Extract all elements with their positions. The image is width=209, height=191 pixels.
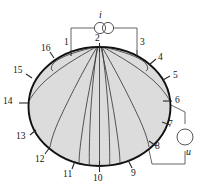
electrode-label-4: 4	[158, 53, 163, 63]
figure-root: i u 1 2 3 4 5 6 7 8 9 10 11 12 13 14 15 …	[0, 0, 209, 191]
electrode-label-11: 11	[63, 170, 72, 180]
current-source-label: i	[99, 10, 102, 20]
voltage-label: u	[186, 147, 191, 157]
electrode-label-12: 12	[35, 155, 45, 165]
electrode-label-2: 2	[95, 34, 100, 44]
electrode-tick-4[interactable]	[149, 59, 156, 65]
electrode-label-5: 5	[173, 71, 178, 81]
electrode-label-13: 13	[16, 132, 26, 142]
electrode-tick-5[interactable]	[163, 76, 170, 80]
electrode-label-15: 15	[13, 66, 23, 76]
electrode-label-6: 6	[175, 96, 180, 106]
electrode-label-1: 1	[64, 38, 69, 48]
electrode-label-9: 9	[131, 169, 136, 179]
electrode-label-16: 16	[41, 44, 51, 54]
current-source-circuit	[71, 22, 137, 50]
electrode-label-8: 8	[155, 142, 160, 152]
voltmeter-circle	[177, 129, 193, 145]
electrode-label-7: 7	[168, 120, 173, 130]
electrode-label-3: 3	[140, 38, 145, 48]
electrode-label-14: 14	[3, 97, 13, 107]
electrode-label-10: 10	[93, 174, 103, 184]
electrode-tick-15[interactable]	[26, 74, 32, 78]
